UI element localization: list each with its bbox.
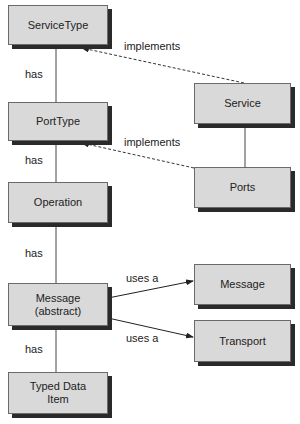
node-port-type: PortType: [8, 102, 108, 141]
node-label: Ports: [230, 181, 256, 194]
node-label-line2: (abstract): [35, 305, 81, 318]
node-ports: Ports: [194, 167, 291, 208]
node-label: ServiceType: [28, 19, 89, 32]
node-label: Service: [224, 97, 261, 110]
edge-label-has: has: [25, 68, 43, 80]
edge-label-has: has: [25, 247, 43, 259]
edge-label-uses-a: uses a: [126, 332, 158, 344]
edge-label-uses-a: uses a: [126, 272, 158, 284]
edge-implements-1: [82, 48, 244, 83]
edge-label-implements: implements: [124, 40, 180, 52]
node-label-line2: Item: [47, 393, 68, 406]
node-label-line1: Message: [36, 292, 81, 305]
node-label: Operation: [34, 196, 82, 209]
edge-label-implements: implements: [124, 136, 180, 148]
node-label: PortType: [36, 115, 80, 128]
node-label: Transport: [219, 335, 266, 348]
node-message: Message: [194, 264, 291, 305]
node-label: Message: [220, 278, 265, 291]
node-operation: Operation: [8, 182, 108, 223]
node-transport: Transport: [194, 320, 291, 362]
node-label-line1: Typed Data: [30, 380, 86, 393]
edge-label-has: has: [25, 343, 43, 355]
node-message-abstract: Message (abstract): [8, 283, 108, 326]
edge-label-has: has: [25, 154, 43, 166]
node-service: Service: [194, 83, 291, 124]
node-service-type: ServiceType: [8, 5, 108, 45]
node-typed-data-item: Typed Data Item: [8, 372, 108, 414]
